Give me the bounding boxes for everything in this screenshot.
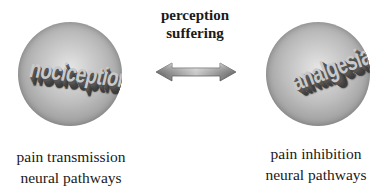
- nociception-sphere: nociception: [18, 22, 122, 126]
- suffering-label: suffering: [140, 24, 250, 42]
- double-arrow-icon: [156, 62, 236, 82]
- nociception-label: nociception: [27, 55, 122, 94]
- right-caption-line1: pain inhibition: [241, 143, 388, 164]
- left-caption-line2: neural pathways: [0, 167, 146, 188]
- right-caption: pain inhibition neural pathways: [241, 143, 388, 185]
- left-caption-line1: pain transmission: [0, 146, 146, 167]
- right-caption-line2: neural pathways: [241, 164, 388, 185]
- analgesia-sphere: analgesia: [266, 22, 370, 126]
- left-caption: pain transmission neural pathways: [0, 146, 146, 188]
- analgesia-label: analgesia: [287, 40, 370, 97]
- perception-label: perception: [140, 6, 250, 24]
